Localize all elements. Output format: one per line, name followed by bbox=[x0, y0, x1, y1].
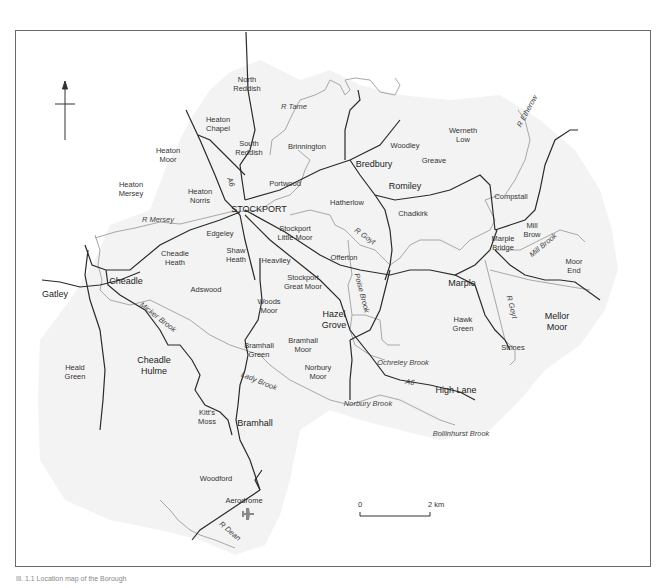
place-label: HeatonMersey bbox=[119, 180, 144, 198]
place-label: BramhallGreen bbox=[244, 341, 274, 359]
figure-caption: Ill. 1.1 Location map of the Borough bbox=[16, 575, 127, 582]
place-label: Hatherlow bbox=[330, 198, 364, 207]
place-label: Chadkirk bbox=[398, 209, 428, 218]
place-label: NorburyMoor bbox=[305, 363, 332, 381]
place-label: MarpleBridge bbox=[492, 234, 515, 252]
place-label: HawkGreen bbox=[453, 315, 474, 333]
place-label: ShawHeath bbox=[226, 246, 246, 264]
scale-bar-end-label: 2 km bbox=[428, 500, 444, 509]
place-label: Greave bbox=[422, 156, 447, 165]
place-label: HealdGreen bbox=[65, 363, 86, 381]
place-label: Bramhall bbox=[237, 418, 273, 429]
place-label: NorthReddish bbox=[233, 75, 261, 93]
place-label: HeatonNorris bbox=[188, 187, 212, 205]
place-label: WoodsMoor bbox=[257, 297, 280, 315]
place-label: MoorEnd bbox=[565, 257, 582, 275]
place-label: HazelGrove bbox=[322, 309, 347, 331]
place-label: Compstall bbox=[494, 192, 527, 201]
place-label: StockportLittle Moor bbox=[277, 224, 312, 242]
place-label: Strines bbox=[501, 343, 524, 352]
place-label: Adswood bbox=[191, 285, 222, 294]
place-label: Portwood bbox=[269, 179, 301, 188]
place-label: Bredbury bbox=[356, 159, 393, 170]
place-label: HeatonChapel bbox=[206, 115, 230, 133]
place-label: HeatonMoor bbox=[156, 146, 180, 164]
place-label: Marple bbox=[448, 278, 476, 289]
north-arrow-icon bbox=[55, 81, 75, 140]
river-label: R Mersey bbox=[142, 215, 174, 224]
place-label: Woodley bbox=[390, 141, 419, 150]
place-label: STOCKPORT bbox=[231, 204, 287, 215]
place-label: Aerodrome bbox=[225, 496, 262, 505]
place-label: CheadleHulme bbox=[137, 355, 171, 377]
borough-area bbox=[38, 60, 618, 555]
place-label: StockportGreat Moor bbox=[284, 273, 322, 291]
place-label: Kitt'sMoss bbox=[198, 408, 216, 426]
place-label: Brinnington bbox=[288, 142, 326, 151]
place-label: Woodford bbox=[200, 474, 232, 483]
place-label: SouthReddish bbox=[235, 139, 263, 157]
place-label: Offerton bbox=[331, 253, 358, 262]
river-label: R Tame bbox=[281, 102, 307, 111]
place-label: High Lane bbox=[435, 385, 476, 396]
river-label: Norbury Brook bbox=[344, 399, 392, 408]
place-label: BramhallMoor bbox=[288, 336, 318, 354]
place-label: WernethLow bbox=[449, 126, 477, 144]
scale-bar bbox=[360, 512, 430, 516]
place-label: CheadleHeath bbox=[161, 249, 189, 267]
scale-bar-start-label: 0 bbox=[358, 500, 362, 509]
river-label: Bollinhurst Brook bbox=[433, 429, 490, 438]
river-label: Ochreley Brook bbox=[377, 358, 429, 367]
place-label: Edgeley bbox=[206, 229, 233, 238]
place-label: MillBrow bbox=[523, 221, 540, 239]
road-label: A6 bbox=[405, 377, 416, 387]
place-label: MellorMoor bbox=[545, 311, 570, 333]
place-label: Heaviley bbox=[262, 256, 291, 265]
place-label: Gatley bbox=[42, 289, 68, 300]
place-label: Cheadle bbox=[109, 276, 143, 287]
place-label: Romiley bbox=[389, 181, 422, 192]
location-map[interactable] bbox=[0, 0, 667, 588]
